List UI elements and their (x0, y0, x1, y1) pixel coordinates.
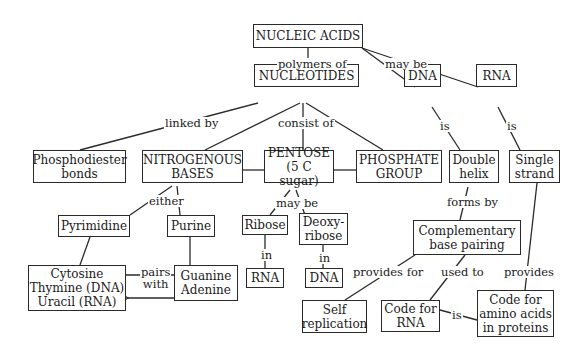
node-label: Deoxy- ribose (303, 215, 345, 243)
node-pyrimidines-list: Cytosine Thymine (DNA) Uracil (RNA) (28, 265, 126, 311)
node-label: Code for amino acids in proteins (479, 293, 552, 335)
node-code-for-rna: Code for RNA (381, 300, 440, 332)
link-pairs-with: pairs with (140, 266, 171, 290)
node-label: Guanine Adenine (181, 269, 232, 297)
link-linked-by: linked by (164, 117, 219, 129)
link-may-be-top: may be (384, 58, 428, 70)
node-label: PHOSPHATE GROUP (359, 153, 439, 181)
node-code-amino-acids: Code for amino acids in proteins (477, 290, 554, 337)
node-label: NUCLEIC ACIDS (256, 29, 361, 43)
node-label: Single strand (515, 153, 554, 181)
node-label: Phosphodiester bonds (32, 153, 126, 181)
node-label: Purine (171, 219, 211, 233)
node-purine: Purine (167, 215, 215, 237)
node-single-strand: Single strand (509, 150, 560, 183)
node-rna-bottom: RNA (246, 268, 284, 288)
link-provides-for: provides for (352, 266, 424, 278)
node-label: NITROGENOUS BASES (143, 153, 242, 181)
link-is-rna: is (506, 120, 518, 132)
link-in-deoxy: in (318, 252, 331, 264)
node-deoxyribose: Deoxy- ribose (299, 213, 348, 245)
node-label: RNA (251, 271, 279, 285)
node-label: PENTOSE (5 C sugar) (265, 146, 333, 188)
link-provides: provides (503, 266, 555, 278)
node-nucleic-acids: NUCLEIC ACIDS (253, 24, 363, 48)
node-label: DNA (310, 271, 339, 285)
link-used-to: used to (440, 266, 485, 278)
node-pentose: PENTOSE (5 C sugar) (264, 150, 334, 183)
node-phosphate-group: PHOSPHATE GROUP (356, 150, 442, 183)
node-self-replication: Self replication (302, 300, 367, 333)
node-nitrogenous-bases: NITROGENOUS BASES (142, 150, 243, 183)
node-label: Complementary base pairing (418, 224, 515, 252)
link-polymers-of: polymers of (277, 58, 347, 70)
link-forms-by: forms by (446, 196, 499, 208)
link-either: either (148, 195, 185, 207)
concept-map: NUCLEIC ACIDS NUCLEOTIDES DNA RNA Phosph… (0, 0, 585, 355)
link-is-code: is (451, 309, 463, 321)
node-label: Self replication (302, 303, 368, 331)
node-label: Cytosine Thymine (DNA) Uracil (RNA) (30, 267, 125, 309)
node-label: Pyrimidine (61, 219, 127, 233)
node-double-helix: Double helix (449, 150, 499, 183)
node-purines-list: Guanine Adenine (174, 265, 238, 301)
node-label: Double helix (452, 153, 495, 181)
node-rna-top: RNA (476, 64, 517, 87)
node-dna-bottom: DNA (305, 268, 343, 288)
node-complementary: Complementary base pairing (413, 220, 521, 255)
node-label: Code for RNA (384, 302, 436, 330)
node-label: RNA (482, 69, 510, 83)
link-in-ribose: in (260, 249, 273, 261)
node-label: Ribose (244, 218, 285, 232)
link-consist-of: consist of (277, 117, 335, 129)
node-ribose: Ribose (242, 215, 288, 235)
link-is-dna: is (439, 120, 451, 132)
link-may-be-pentose: may be (275, 197, 319, 209)
node-phosphodiester: Phosphodiester bonds (33, 150, 126, 183)
node-pyrimidine: Pyrimidine (58, 215, 130, 237)
